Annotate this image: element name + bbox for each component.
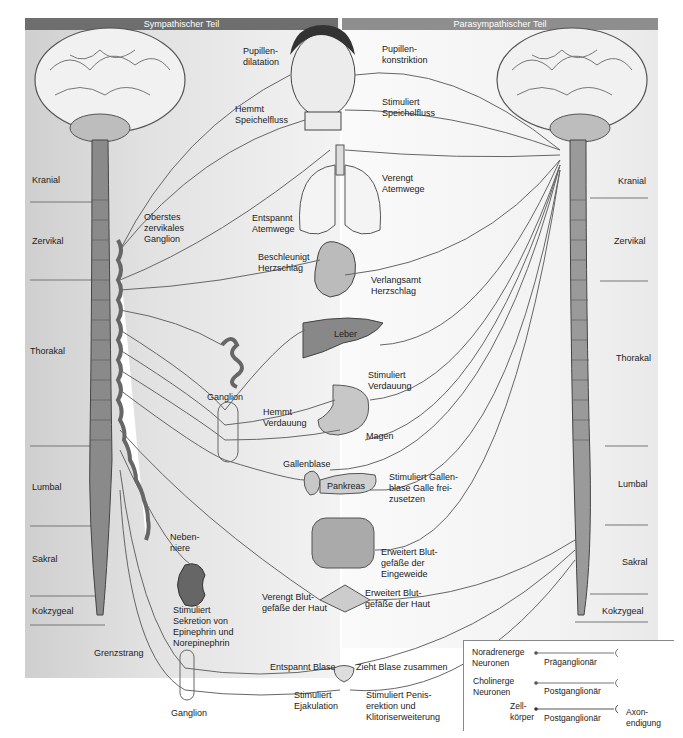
label-slow-heartbeat: Verlangsamt Herzschlag xyxy=(371,275,421,297)
label-inhibit-saliva: Hemmt Speichelfluss xyxy=(235,104,288,126)
label-relax-bladder: Entspannt Blase xyxy=(270,662,336,673)
label-accelerate-heartbeat: Beschleunigt Herzschlag xyxy=(258,252,310,274)
head-icon xyxy=(290,25,355,130)
left-region-lumbal: Lumbal xyxy=(32,482,62,492)
legend-postganglionic-2: Postganglionär xyxy=(544,713,601,724)
heart-icon xyxy=(315,242,356,297)
label-stimulate-epinephrine: Stimuliert Sekretion von Epinephrin und … xyxy=(173,605,234,649)
stomach-icon xyxy=(318,385,369,435)
label-dilate-intestinal-vessels: Erweitert Blut- gefäße der Eingeweide xyxy=(381,547,438,580)
bladder-icon xyxy=(334,666,354,683)
legend-postganglionic-1: Postganglionär xyxy=(544,686,601,697)
label-stimulate-ejaculation: Stimuliert Ejakulation xyxy=(294,690,338,712)
right-region-lumbal: Lumbal xyxy=(618,479,648,489)
left-region-sakral: Sakral xyxy=(32,554,58,564)
right-region-sakral: Sakral xyxy=(622,557,648,567)
legend-cell-body: Zell- körper xyxy=(510,701,534,723)
left-brain-icon xyxy=(35,28,185,142)
right-region-thorakal: Thorakal xyxy=(616,353,651,363)
small-ganglion-coil-icon xyxy=(222,339,242,387)
lungs-icon xyxy=(299,145,380,234)
legend-axon-ending: Axon- endigung xyxy=(626,707,661,729)
label-gallbladder: Gallenblase xyxy=(283,459,331,470)
label-liver: Leber xyxy=(334,329,357,340)
skin-icon xyxy=(320,585,370,612)
label-constrict-skin-vessels: Verengt Blut- gefäße der Haut xyxy=(262,592,327,614)
right-region-zervikal: Zervikal xyxy=(614,236,646,246)
left-region-zervikal: Zervikal xyxy=(32,236,64,246)
label-pancreas: Pankreas xyxy=(327,481,365,492)
intestine-icon xyxy=(312,518,374,568)
label-adrenal: Neben- niere xyxy=(170,532,200,554)
legend: Noradrenerge Neuronen Cholinerge Neurone… xyxy=(463,640,674,731)
right-region-kokzygeal: Kokzygeal xyxy=(602,606,644,616)
left-spinal-cord xyxy=(90,140,112,615)
label-contract-bladder: Zieht Blase zusammen xyxy=(356,662,448,673)
gallbladder-icon xyxy=(304,471,320,495)
label-sympathetic-chain: Grenzstrang xyxy=(94,648,144,659)
label-dilate-skin-vessels: Erweitert Blut- gefäße der Haut xyxy=(365,588,430,610)
pelvic-ganglion xyxy=(180,650,194,700)
label-constrict-airways: Verengt Atemwege xyxy=(382,173,425,195)
label-celiac-ganglion: Ganglion xyxy=(207,392,243,403)
label-pelvic-ganglion: Ganglion xyxy=(171,708,207,719)
label-stimulate-erection: Stimuliert Penis- erektion und Klitorise… xyxy=(366,690,440,723)
label-pupil-dilatation: Pupillen- dilatation xyxy=(243,46,279,68)
celiac-ganglion xyxy=(218,402,238,462)
left-region-kokzygeal: Kokzygeal xyxy=(32,606,74,616)
label-stimulate-saliva: Stimuliert Speichelfluss xyxy=(382,97,435,119)
right-region-kranial: Kranial xyxy=(618,176,646,186)
legend-preganglionic: Präganglionär xyxy=(544,657,597,668)
left-region-kranial: Kranial xyxy=(32,175,60,185)
label-pupil-constriction: Pupillen- konstriktion xyxy=(382,44,428,66)
label-stomach: Magen xyxy=(366,431,394,442)
right-spinal-cord xyxy=(570,140,590,615)
label-relax-airways: Entspannt Atemwege xyxy=(252,213,295,235)
nervous-system-illustration xyxy=(0,0,683,738)
right-brain-icon xyxy=(497,28,647,142)
left-region-thorakal: Thorakal xyxy=(30,346,65,356)
label-inhibit-digestion: Hemmt Verdauung xyxy=(263,407,307,429)
kidney-adrenal-icon xyxy=(178,564,206,607)
label-stimulate-digestion: Stimuliert Verdauung xyxy=(368,370,412,392)
label-superior-cervical-ganglion: Oberstes zervikales Ganglion xyxy=(144,212,184,245)
sympathetic-chain xyxy=(118,240,149,540)
label-stimulate-bile: Stimuliert Gallen- blase Galle frei- zus… xyxy=(389,472,458,505)
